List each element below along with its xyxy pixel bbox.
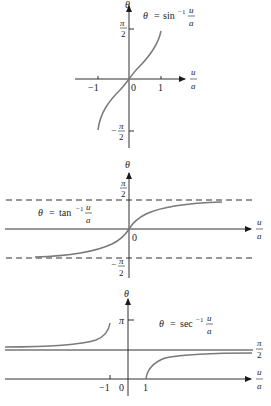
graph-arcsec: θ u a −1 0 1 π π 2 θ = sec −1 u a [5,288,263,396]
y-tick-label-pi: π [121,178,126,188]
svg-text:−1: −1 [76,205,84,213]
y-tick-label-pi-half-num: π [257,338,262,348]
svg-text:−1: −1 [178,8,186,16]
svg-text:a: a [207,326,212,336]
svg-text:=: = [170,318,176,329]
x-tick-label-0: 0 [119,382,124,393]
graph-arcsin: θ u a −1 0 1 π 2 − π 2 θ = sin −1 u a [75,0,197,148]
y-tick-label-pi: π [119,315,125,326]
svg-text:−1: −1 [196,316,204,324]
arcsec-curve-right [146,353,252,379]
y-axis-label: θ [124,288,129,299]
svg-text:−: − [111,125,116,135]
x-tick-label-neg1: −1 [99,382,110,393]
x-axis-label-num: u [257,367,262,377]
svg-text:sin: sin [163,10,175,21]
x-tick-label-neg1: −1 [88,82,99,93]
svg-text:θ: θ [159,318,164,329]
svg-text:a: a [189,18,194,28]
arcsin-curve [98,31,161,130]
svg-text:2: 2 [121,189,126,199]
equation-arcsec: θ = sec −1 u a [159,313,213,336]
svg-text:2: 2 [119,132,124,142]
diagram-canvas: θ u a −1 0 1 π 2 − π 2 θ = sin −1 u a [0,0,271,406]
svg-text:2: 2 [119,268,124,278]
svg-text:u: u [86,202,91,212]
y-tick-label-2: 2 [121,29,126,39]
x-axis-label-num: u [257,217,262,227]
svg-text:−: − [111,259,116,269]
x-axis-label-den: a [257,381,262,391]
y-tick-label-pi: π [120,18,125,28]
y-axis-label: θ [125,0,130,10]
svg-text:θ: θ [143,10,148,21]
x-tick-label-0: 0 [132,232,137,243]
svg-text:a: a [86,215,91,225]
x-axis-label-den: a [191,81,196,91]
svg-text:=: = [154,10,160,21]
x-axis-label-num: u [191,67,196,77]
arcsec-curve-left [5,323,110,347]
svg-text:=: = [49,207,55,218]
svg-text:sec: sec [180,318,193,329]
x-axis-label-den: a [257,231,262,241]
graph-arctan: θ u a 0 π 2 − π 2 θ = tan −1 u a [5,159,263,278]
svg-text:θ: θ [38,207,43,218]
svg-text:u: u [189,5,194,15]
y-axis-label: θ [125,159,130,170]
x-tick-label-0: 0 [131,82,136,93]
y-tick-label-neg-pi: π [119,256,124,266]
y-tick-label-pi-half-den: 2 [257,350,262,360]
svg-text:u: u [207,313,212,323]
x-tick-label-1: 1 [143,382,148,393]
equation-arcsin: θ = sin −1 u a [143,5,195,28]
x-tick-label-1: 1 [158,82,163,93]
y-tick-label-neg-pi: π [119,121,124,131]
svg-text:tan: tan [59,207,71,218]
equation-arctan: θ = tan −1 u a [38,202,92,225]
